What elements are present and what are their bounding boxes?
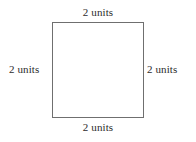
square-top-side-label: 2 units — [0, 6, 196, 19]
square-right-side-label: 2 units — [147, 63, 177, 76]
geometry-figure-canvas: 2 units 2 units 2 units 2 units — [0, 0, 196, 142]
square-shape — [52, 22, 144, 118]
square-bottom-side-label: 2 units — [0, 121, 196, 134]
square-left-side-label: 2 units — [9, 63, 39, 76]
